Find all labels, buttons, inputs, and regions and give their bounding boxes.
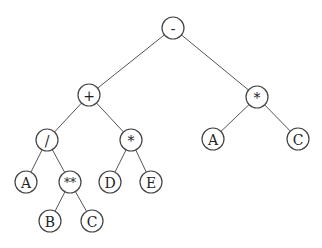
tree-node: D — [99, 171, 121, 193]
node-label: * — [128, 133, 135, 149]
node-label: ** — [64, 176, 76, 190]
tree-edge — [173, 28, 257, 97]
node-label: C — [293, 132, 304, 148]
tree-node: * — [120, 129, 142, 151]
node-label: C — [87, 214, 98, 230]
tree-node: A — [15, 171, 37, 193]
tree-node: - — [162, 17, 184, 39]
tree-node: / — [36, 129, 58, 151]
tree-node: C — [81, 210, 103, 232]
tree-node: + — [78, 84, 100, 106]
tree-node: C — [287, 128, 309, 150]
tree-node: E — [140, 171, 162, 193]
tree-edge — [89, 28, 173, 95]
tree-nodes: -+*/*ACA**DEBC — [15, 17, 309, 232]
node-label: E — [146, 175, 156, 191]
tree-node: ** — [59, 171, 81, 193]
node-label: - — [171, 21, 176, 37]
node-label: * — [254, 90, 261, 106]
tree-node: * — [246, 86, 268, 108]
node-label: / — [45, 133, 50, 149]
node-label: B — [45, 214, 55, 230]
expression-tree-diagram: -+*/*ACA**DEBC — [0, 0, 322, 248]
node-label: A — [207, 132, 219, 148]
node-label: + — [83, 88, 95, 104]
tree-node: A — [202, 128, 224, 150]
tree-node: B — [39, 210, 61, 232]
node-label: A — [20, 175, 32, 191]
node-label: D — [104, 175, 115, 191]
